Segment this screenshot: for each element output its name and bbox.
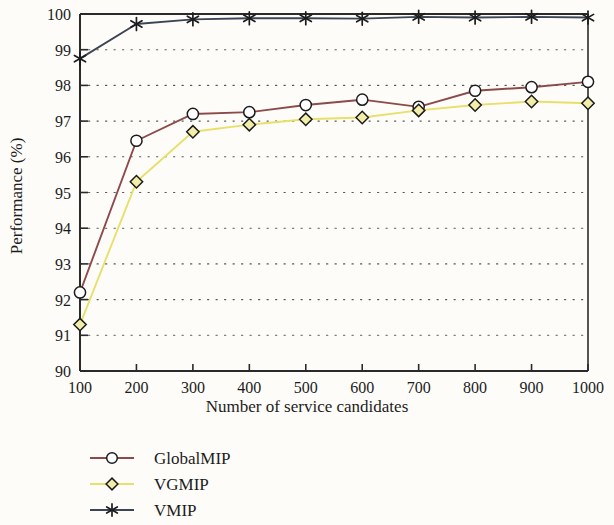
x-axis-title: Number of service candidates <box>206 397 409 416</box>
marker-circle <box>526 82 537 93</box>
marker-circle <box>357 94 368 105</box>
y-tick-label: 92 <box>55 292 71 309</box>
y-tick-label: 100 <box>47 6 71 23</box>
y-tick-label: 90 <box>55 363 71 380</box>
y-tick-label: 99 <box>55 42 71 59</box>
y-tick-label: 91 <box>55 327 71 344</box>
x-tick-label: 700 <box>407 379 431 396</box>
legend-label: VGMIP <box>154 475 209 494</box>
x-tick-label: 900 <box>520 379 544 396</box>
marker-circle <box>470 85 481 96</box>
y-tick-label: 95 <box>55 185 71 202</box>
y-axis-title: Performance (%) <box>7 138 26 255</box>
y-tick-label: 94 <box>55 220 71 237</box>
marker-circle <box>74 287 85 298</box>
x-tick-label: 100 <box>68 379 92 396</box>
x-tick-label: 1000 <box>572 379 604 396</box>
y-tick-label: 96 <box>55 149 71 166</box>
marker-circle <box>131 135 142 146</box>
marker-circle <box>300 99 311 110</box>
y-tick-label: 98 <box>55 77 71 94</box>
x-tick-label: 200 <box>124 379 148 396</box>
marker-circle <box>107 453 118 464</box>
chart-figure: 1002003004005006007008009001000 90919293… <box>0 0 614 525</box>
legend-label: VMIP <box>154 501 197 520</box>
y-tick-label: 97 <box>55 113 71 130</box>
y-tick-label: 93 <box>55 256 71 273</box>
marker-circle <box>582 76 593 87</box>
x-tick-label: 800 <box>463 379 487 396</box>
x-tick-label: 300 <box>181 379 205 396</box>
marker-circle <box>244 107 255 118</box>
marker-circle <box>187 108 198 119</box>
legend-label: GlobalMIP <box>154 449 231 468</box>
x-tick-label: 400 <box>237 379 261 396</box>
x-tick-label: 500 <box>294 379 318 396</box>
x-tick-label: 600 <box>350 379 374 396</box>
performance-line-chart: 1002003004005006007008009001000 90919293… <box>0 0 614 525</box>
